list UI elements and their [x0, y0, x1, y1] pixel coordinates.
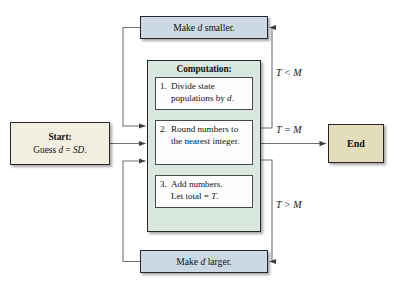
start-title: Start: — [48, 131, 71, 143]
make-d-smaller-box: Make d smaller. — [140, 16, 268, 39]
start-text: Guess d = SD. — [33, 144, 86, 156]
computation-step-2: 2. Round numbers to the nearest integer. — [155, 120, 253, 165]
computation-title: Computation: — [176, 64, 231, 74]
computation-step-1: 1. Divide state populations by d. — [155, 77, 253, 110]
flowchart-canvas: Start: Guess d = SD. Make d smaller. Com… — [0, 0, 395, 290]
condition-equal: T = M — [276, 124, 301, 135]
start-box: Start: Guess d = SD. — [10, 122, 110, 165]
wire-greater-than — [261, 160, 272, 262]
step-3-number: 3. — [160, 179, 171, 204]
step-1-number: 1. — [160, 81, 171, 106]
condition-less-than: T < M — [276, 67, 301, 78]
step-2-text: Round numbers to the nearest integer. — [171, 124, 249, 161]
make-d-smaller-label: Make d smaller. — [173, 22, 235, 33]
step-1-text: Divide state populations by d. — [171, 81, 249, 106]
condition-greater-than: T > M — [276, 199, 301, 210]
wire-less-than — [261, 28, 272, 129]
computation-box: Computation: 1. Divide state populations… — [147, 60, 261, 232]
computation-step-3: 3. Add numbers.Let total = T. — [155, 175, 253, 208]
end-box: End — [328, 124, 384, 163]
make-d-larger-label: Make d larger. — [176, 256, 232, 267]
step-3-text: Add numbers.Let total = T. — [171, 179, 249, 204]
wire-larger-to-computation — [123, 161, 146, 262]
wire-smaller-to-computation — [123, 28, 146, 127]
end-label: End — [347, 138, 365, 149]
step-2-number: 2. — [160, 124, 171, 161]
make-d-larger-box: Make d larger. — [140, 250, 268, 273]
